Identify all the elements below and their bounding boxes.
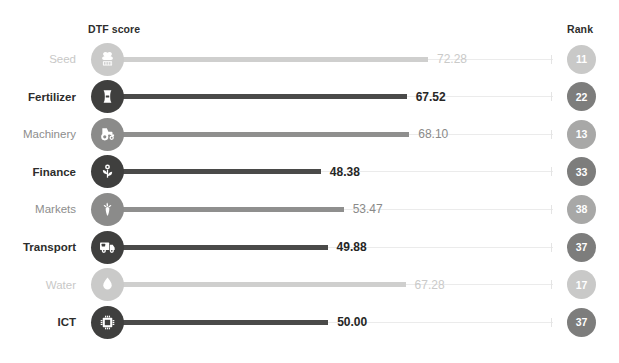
rank-bubble: 37 bbox=[567, 233, 596, 262]
chart-row: Markets53.4738 bbox=[0, 190, 619, 228]
category-icon-badge bbox=[91, 80, 124, 113]
category-icon-badge bbox=[91, 155, 124, 188]
chart-row: Finance48.3833 bbox=[0, 153, 619, 191]
sprout-coin-icon bbox=[98, 162, 117, 181]
category-icon-badge bbox=[91, 118, 124, 151]
category-label: Markets bbox=[35, 203, 76, 215]
chart-row: Fertilizer67.5222 bbox=[0, 78, 619, 116]
value-label: 50.00 bbox=[337, 315, 367, 329]
seed-bag-icon bbox=[98, 50, 117, 69]
value-label: 49.88 bbox=[337, 240, 367, 254]
rank-value: 17 bbox=[576, 279, 588, 291]
value-bar bbox=[104, 282, 406, 287]
tractor-icon bbox=[98, 124, 118, 144]
rank-bubble: 38 bbox=[567, 195, 596, 224]
rank-bubble: 22 bbox=[567, 82, 596, 111]
value-label: 72.28 bbox=[437, 52, 467, 66]
chart-row: ICT50.0037 bbox=[0, 303, 619, 341]
row-connector-end-cap bbox=[551, 92, 552, 101]
water-drop-icon bbox=[98, 275, 117, 294]
category-icon-badge bbox=[91, 306, 124, 339]
category-label: Finance bbox=[33, 166, 76, 178]
rank-value: 11 bbox=[576, 53, 587, 65]
category-icon-badge bbox=[91, 43, 124, 76]
fertilizer-sack-icon bbox=[98, 87, 117, 106]
row-connector-end-cap bbox=[551, 167, 552, 176]
rank-value: 13 bbox=[576, 128, 588, 140]
category-label: Water bbox=[46, 279, 76, 291]
row-connector-end-cap bbox=[551, 280, 552, 289]
category-label: Seed bbox=[49, 53, 76, 65]
rank-bubble: 11 bbox=[567, 45, 596, 74]
rank-value: 37 bbox=[576, 241, 588, 253]
row-connector-end-cap bbox=[551, 205, 552, 214]
row-connector-end-cap bbox=[551, 55, 552, 64]
value-bar bbox=[104, 245, 328, 250]
chart-row: Machinery68.1013 bbox=[0, 115, 619, 153]
value-label: 48.38 bbox=[330, 165, 360, 179]
value-bar bbox=[104, 169, 321, 174]
value-bar bbox=[104, 94, 407, 99]
category-label: ICT bbox=[57, 316, 76, 328]
value-label: 53.47 bbox=[353, 202, 383, 216]
chart-row: Seed72.2811 bbox=[0, 40, 619, 78]
chart-row: Transport49.8837 bbox=[0, 228, 619, 266]
row-connector-end-cap bbox=[551, 130, 552, 139]
category-label: Fertilizer bbox=[28, 91, 76, 103]
value-label: 68.10 bbox=[418, 127, 448, 141]
category-icon-badge bbox=[91, 231, 124, 264]
row-connector-end-cap bbox=[551, 318, 552, 327]
delivery-truck-icon bbox=[98, 237, 118, 257]
value-bar bbox=[104, 57, 428, 62]
carrot-icon bbox=[98, 200, 117, 219]
rank-bubble: 13 bbox=[567, 120, 596, 149]
value-bar bbox=[104, 132, 409, 137]
value-label: 67.52 bbox=[416, 90, 446, 104]
rank-bubble: 37 bbox=[567, 308, 596, 337]
rank-value: 22 bbox=[576, 91, 588, 103]
value-label: 67.28 bbox=[415, 278, 445, 292]
rank-column-header: Rank bbox=[567, 23, 593, 35]
value-bar bbox=[104, 320, 328, 325]
value-bar bbox=[104, 207, 344, 212]
chart-row: Water67.2817 bbox=[0, 266, 619, 304]
rank-value: 37 bbox=[576, 316, 588, 328]
row-connector-end-cap bbox=[551, 243, 552, 252]
microchip-icon bbox=[98, 313, 117, 332]
category-icon-badge bbox=[91, 193, 124, 226]
dtf-score-column-header: DTF score bbox=[88, 23, 140, 35]
rank-value: 33 bbox=[576, 166, 588, 178]
category-icon-badge bbox=[91, 268, 124, 301]
rank-bubble: 33 bbox=[567, 157, 596, 186]
rank-bubble: 17 bbox=[567, 270, 596, 299]
category-label: Machinery bbox=[23, 128, 76, 140]
dtf-score-chart: DTF score Rank Seed72.2811Fertilizer67.5… bbox=[0, 0, 619, 363]
category-label: Transport bbox=[23, 241, 76, 253]
rank-value: 38 bbox=[576, 203, 588, 215]
